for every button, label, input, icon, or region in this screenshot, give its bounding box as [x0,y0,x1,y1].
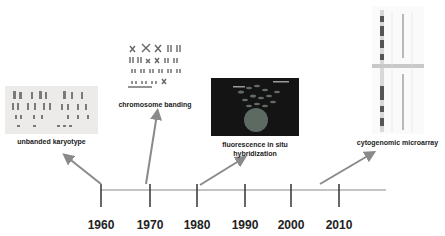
year-label-2000: 2000 [271,218,311,232]
arrow-to-unbanded-karyotype [67,157,101,184]
arrow-to-chromosome-banding [146,114,157,184]
label-chromosome-banding: chromosome banding [114,100,196,109]
label-unbanded-karyotype: unbanded karyotype [5,137,98,146]
year-label-1980: 1980 [177,218,217,232]
year-label-1970: 1970 [130,218,170,232]
microarray-image [372,6,424,134]
label-fish-line1: fluorescence in situ [205,140,305,149]
arrow-to-fish [200,159,242,185]
year-label-1960: 1960 [81,218,121,232]
timeline-ticks [101,184,339,207]
label-fish-line2: hybridization [205,149,305,158]
year-label-2010: 2010 [319,218,359,232]
label-cytogenomic-microarray: cytogenomic microarray [350,138,445,147]
chromosome-banding-image [124,42,186,94]
year-label-1990: 1990 [225,218,265,232]
unbanded-karyotype-image [5,86,98,134]
arrow-to-microarray [320,154,371,184]
fish-image [211,78,299,136]
